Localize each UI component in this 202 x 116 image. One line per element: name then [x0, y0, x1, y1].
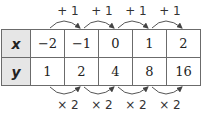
top-arrow-icon [118, 21, 148, 28]
table-cell: 1 [31, 58, 65, 86]
table-cell: 4 [99, 58, 133, 86]
row-header-x: x [2, 30, 31, 58]
table-cell: 0 [99, 30, 133, 58]
bottom-arrow-icon [50, 87, 80, 94]
bottom-arrow-icon [84, 87, 114, 94]
table-cell: 2 [167, 30, 201, 58]
bottom-arrow-icon [118, 87, 148, 94]
top-annotation: + 1 [153, 4, 187, 18]
table-row-x: x −2 −1 0 1 2 [2, 30, 201, 58]
bottom-annotation: × 2 [153, 98, 187, 112]
top-annotation: + 1 [85, 4, 119, 18]
table-row-y: y 1 2 4 8 16 [2, 58, 201, 86]
top-annotation: + 1 [51, 4, 85, 18]
table-cell: −2 [31, 30, 65, 58]
table-cell: −1 [65, 30, 99, 58]
bottom-annotation: × 2 [119, 98, 153, 112]
table-cell: 1 [133, 30, 167, 58]
row-header-y: y [2, 58, 31, 86]
bottom-annotation: × 2 [51, 98, 85, 112]
table-cell: 8 [133, 58, 167, 86]
top-arrow-icon [84, 21, 114, 28]
bottom-arrow-icon [152, 87, 182, 94]
table-cell: 2 [65, 58, 99, 86]
table-cell: 16 [167, 58, 201, 86]
top-annotation: + 1 [119, 4, 153, 18]
bottom-annotation: × 2 [85, 98, 119, 112]
top-arrow-icon [50, 21, 80, 28]
top-arrow-icon [152, 21, 182, 28]
function-table: x −2 −1 0 1 2 y 1 2 4 8 16 [1, 29, 201, 86]
